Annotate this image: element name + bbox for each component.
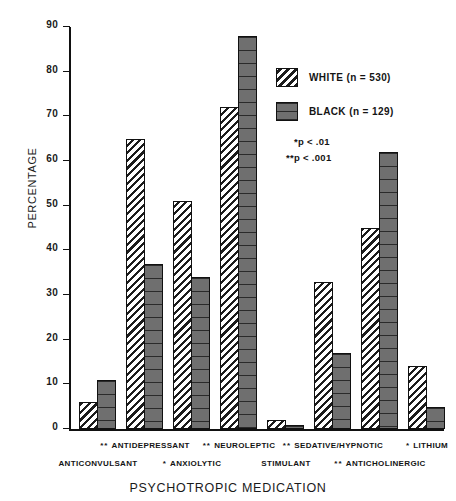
bar-black	[191, 277, 210, 429]
y-tick-0: 0	[63, 428, 70, 429]
bar-group-neuroleptic	[220, 27, 257, 429]
y-axis-line	[69, 27, 71, 431]
category-name: STIMULANT	[261, 459, 310, 468]
y-tick-label: 30	[46, 287, 58, 298]
legend-label-black: BLACK (n = 129)	[309, 106, 394, 117]
y-tick-50: 50	[63, 205, 70, 206]
significance-stars: **	[283, 441, 294, 450]
x-axis-line	[69, 429, 444, 431]
x-label-antidepressant: ** ANTIDEPRESSANT	[100, 441, 190, 450]
significance-stars: **	[203, 441, 214, 450]
bar-black	[238, 36, 257, 429]
y-tick-label: 10	[46, 376, 58, 387]
bar-white	[173, 201, 192, 429]
category-name: NEUROLEPTIC	[214, 441, 275, 450]
y-tick-label: 50	[46, 198, 58, 209]
bar-black	[144, 264, 163, 429]
y-tick-label: 80	[46, 64, 58, 75]
category-name: ANTIDEPRESSANT	[112, 441, 190, 450]
y-tick-80: 80	[63, 71, 70, 72]
bar-white	[408, 366, 427, 429]
y-axis-title: PERCENTAGE	[26, 108, 38, 268]
bar-white	[361, 228, 380, 429]
y-tick-30: 30	[63, 294, 70, 295]
significance-stars: **	[334, 459, 345, 468]
y-tick-10: 10	[63, 383, 70, 384]
y-tick-60: 60	[63, 160, 70, 161]
bar-white	[267, 420, 286, 429]
x-label-lithium: * LITHIUM	[406, 441, 448, 450]
legend-label-white: WHITE (n = 530)	[309, 72, 391, 83]
bar-black	[97, 380, 116, 429]
bar-white	[220, 107, 239, 429]
y-tick-label: 40	[46, 242, 58, 253]
x-label-sedative-hypnotic: ** SEDATIVE/HYPNOTIC	[283, 441, 383, 450]
psychotropic-medication-bar-chart: PERCENTAGE 0102030405060708090 WHITE (n …	[0, 0, 456, 501]
x-label-anticholinergic: ** ANTICHOLINERGIC	[334, 459, 425, 468]
bar-group-antidepressant	[126, 27, 163, 429]
x-label-neuroleptic: ** NEUROLEPTIC	[203, 441, 276, 450]
y-tick-label: 70	[46, 108, 58, 119]
x-label-stimulant: STIMULANT	[261, 459, 310, 468]
bar-black	[332, 353, 351, 429]
bar-black	[379, 152, 398, 429]
significance-note-2: **p < .001	[286, 152, 451, 163]
x-label-anxiolytic: * ANXIOLYTIC	[163, 459, 222, 468]
y-tick-label: 0	[52, 421, 58, 432]
x-axis-title: PSYCHOTROPIC MEDICATION	[0, 481, 456, 495]
significance-stars: **	[100, 441, 111, 450]
legend: WHITE (n = 530) BLACK (n = 129) *p < .01…	[276, 68, 451, 168]
bar-group-anticonvulsant	[79, 27, 116, 429]
category-name: ANTICHOLINERGIC	[346, 459, 426, 468]
bar-white	[79, 402, 98, 429]
bar-group-anxiolytic	[173, 27, 210, 429]
legend-item-black: BLACK (n = 129)	[276, 102, 451, 121]
significance-note-1: *p < .01	[294, 136, 451, 147]
y-tick-label: 90	[46, 19, 58, 30]
bar-black	[285, 425, 304, 429]
category-name: LITHIUM	[413, 441, 448, 450]
legend-item-white: WHITE (n = 530)	[276, 68, 451, 87]
y-tick-label: 60	[46, 153, 58, 164]
category-name: SEDATIVE/HYPNOTIC	[294, 441, 383, 450]
x-label-anticonvulsant: ANTICONVULSANT	[58, 459, 137, 468]
y-tick-label: 20	[46, 332, 58, 343]
bar-white	[314, 282, 333, 429]
category-name: ANXIOLYTIC	[170, 459, 221, 468]
bar-black	[426, 407, 445, 429]
bar-white	[126, 139, 145, 429]
legend-swatch-white-icon	[276, 68, 298, 87]
category-name: ANTICONVULSANT	[58, 459, 137, 468]
y-tick-90: 90	[63, 26, 70, 27]
legend-swatch-black-icon	[276, 102, 298, 121]
y-tick-40: 40	[63, 249, 70, 250]
y-tick-20: 20	[63, 339, 70, 340]
y-tick-70: 70	[63, 115, 70, 116]
